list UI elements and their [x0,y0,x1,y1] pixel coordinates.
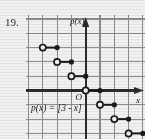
open-point [68,73,74,79]
axis-arrowheads [82,17,144,94]
open-point [97,102,103,108]
open-point [111,116,117,122]
open-point [83,87,89,93]
closed-point [112,102,117,107]
closed-point [83,74,88,79]
step-function-plot: p(x) x O p(x) = [3 - x] [26,15,145,139]
plot-svg: p(x) x O p(x) = [3 - x] [26,15,145,139]
figure-panel: 19. [0,0,145,139]
open-point [40,45,46,51]
x-axis-label: x [135,95,140,105]
open-point [126,130,132,136]
closed-point [55,45,60,50]
closed-point [69,59,74,64]
open-point [54,59,60,65]
closed-point [140,131,145,136]
origin-label: O [76,92,83,102]
equation-label: p(x) = [3 - x] [30,103,82,114]
closed-point [126,117,131,122]
problem-number: 19. [5,16,19,28]
closed-point [97,88,102,93]
y-axis-label: p(x) [69,16,85,26]
